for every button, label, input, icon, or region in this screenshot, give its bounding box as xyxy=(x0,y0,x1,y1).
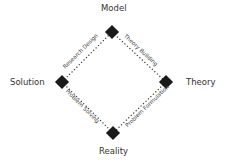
node-label-theory: Theory xyxy=(186,77,216,87)
research-cycle-diagram: Model Theory Reality Solution Theory Bui… xyxy=(0,0,229,168)
node-label-reality: Reality xyxy=(99,146,128,156)
node-label-model: Model xyxy=(101,3,127,13)
node-label-solution: Solution xyxy=(10,77,45,87)
edge-model-theory xyxy=(112,32,166,82)
